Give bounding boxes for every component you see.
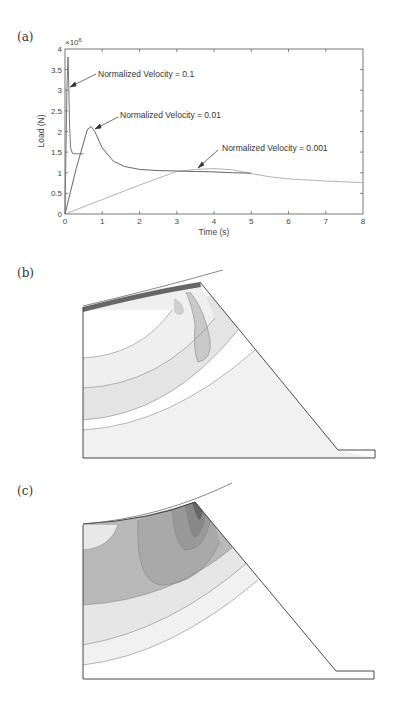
annotation-velocity-0.001: Normalized Velocity = 0.001 xyxy=(222,143,328,153)
x-tick-label: 7 xyxy=(324,217,329,226)
y-tick-label: 2 xyxy=(58,128,63,137)
y-tick-label: 2.5 xyxy=(51,107,63,116)
y-multiplier: ×106 xyxy=(65,37,83,47)
x-tick-label: 6 xyxy=(286,217,291,226)
x-tick-label: 0 xyxy=(63,217,68,226)
x-tick-label: 8 xyxy=(361,217,366,226)
x-tick-label: 2 xyxy=(137,217,142,226)
x-tick-label: 1 xyxy=(100,217,105,226)
series-velocity-0.001 xyxy=(65,169,363,214)
annotation-arrows xyxy=(70,74,218,168)
y-axis-label: Load (N) xyxy=(36,114,46,147)
y-tick-label: 3.5 xyxy=(51,66,63,75)
series-velocity-0.01 xyxy=(65,127,251,215)
y-tick-label: 1 xyxy=(58,169,63,178)
load-time-chart: 0 1 2 3 4 5 6 7 8 0 0.5 1 1.5 2 2.5 3 3.… xyxy=(0,0,394,250)
annotation-velocity-0.01: Normalized Velocity = 0.01 xyxy=(120,110,221,120)
y-tick-label: 3 xyxy=(58,86,63,95)
y-ticks xyxy=(65,70,363,194)
x-axis-label: Time (s) xyxy=(199,227,230,237)
annotation-velocity-0.1: Normalized Velocity = 0.1 xyxy=(98,69,194,79)
x-tick-label: 4 xyxy=(212,217,217,226)
series-velocity-0.1 xyxy=(65,57,84,214)
y-tick-label: 0 xyxy=(58,210,63,219)
y-tick-label: 1.5 xyxy=(51,148,63,157)
y-tick-label: 4 xyxy=(58,45,63,54)
y-tick-label: 0.5 xyxy=(51,189,63,198)
contour-plot-b xyxy=(0,270,394,470)
x-tick-label: 5 xyxy=(249,217,254,226)
contour-plot-c xyxy=(0,480,394,700)
x-tick-label: 3 xyxy=(175,217,180,226)
